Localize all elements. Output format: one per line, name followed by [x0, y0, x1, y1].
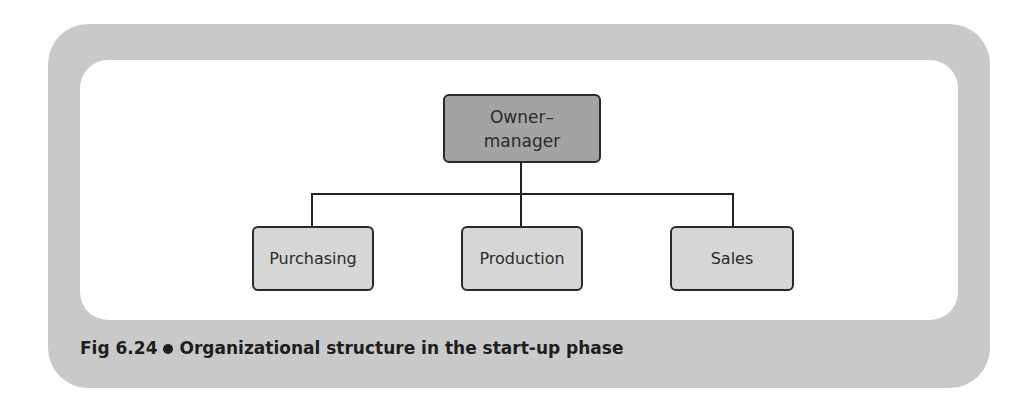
node-sales: Sales [670, 226, 794, 291]
figure-number: Fig 6.24 [80, 338, 157, 358]
figure-caption: Fig 6.24Organizational structure in the … [80, 338, 623, 358]
connector-horizontal [311, 193, 734, 195]
node-purchasing: Purchasing [252, 226, 374, 291]
node-production: Production [461, 226, 583, 291]
bullet-icon [163, 344, 173, 354]
node-production-label: Production [479, 248, 564, 269]
node-owner-manager: Owner– manager [443, 94, 601, 163]
connector-production [520, 193, 522, 227]
node-owner-manager-line1: Owner– [484, 105, 560, 129]
node-owner-manager-line2: manager [484, 129, 560, 153]
connector-root-down [520, 162, 522, 195]
figure-caption-text: Organizational structure in the start-up… [179, 338, 623, 358]
connector-sales [732, 193, 734, 227]
node-purchasing-label: Purchasing [269, 248, 357, 269]
node-sales-label: Sales [711, 248, 754, 269]
connector-purchasing [311, 193, 313, 227]
